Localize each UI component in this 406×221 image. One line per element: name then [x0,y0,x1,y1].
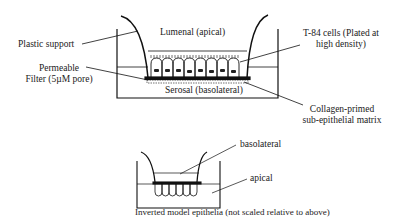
label-t84-line1: T-84 cells (Plated at [296,28,386,39]
insert-wall-left [121,16,148,78]
insert-wall-right [247,15,268,78]
label-collagen-line2: sub-epithelial matrix [298,115,386,126]
caption-inverted-model: Inverted model epithelia (not scaled rel… [135,207,330,218]
permeable-filter [145,77,250,80]
inverted-insert-wall-left [141,152,155,182]
label-collagen: Collagen-primed sub-epithelial matrix [298,104,386,126]
label-permeable-filter-line1: Permeable [24,63,94,74]
label-apical: apical [250,173,273,184]
inverted-cell-layer [155,184,197,196]
t84-cell-layer [151,55,239,77]
collagen-matrix [147,80,248,83]
label-serosal: Serosal (basolateral) [165,85,243,96]
label-lumenal: Lumenal (apical) [160,27,225,38]
leader-apical [212,179,247,193]
label-basolateral: basolateral [240,139,281,150]
label-plastic-support: Plastic support [18,39,74,50]
inverted-insert-wall-right [197,152,207,182]
label-permeable-filter-line2: Filter (5µM pore) [24,74,94,85]
label-t84-line2: high density) [296,39,386,50]
bottom-model [137,145,247,208]
leader-basolateral [180,145,236,174]
leader-collagen [244,82,303,105]
inverted-filter [153,182,201,184]
label-t84-cells: T-84 cells (Plated at high density) [296,28,386,50]
leader-plastic-support [82,31,138,44]
label-collagen-line1: Collagen-primed [298,104,386,115]
label-permeable-filter: Permeable Filter (5µM pore) [24,63,94,85]
